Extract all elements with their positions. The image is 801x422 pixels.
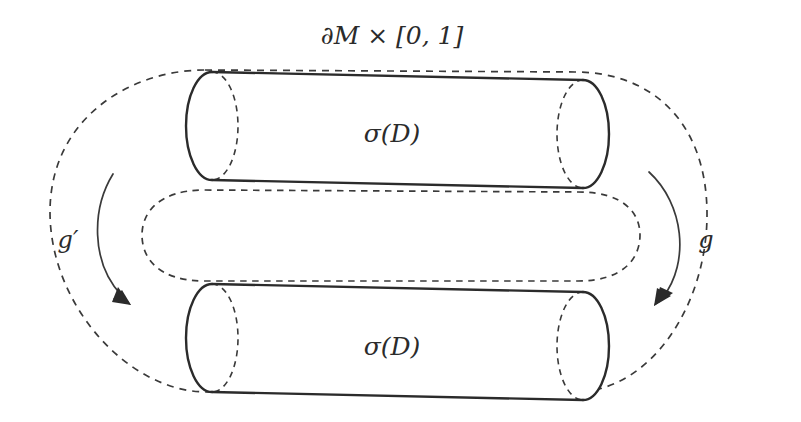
upper-cylinder: σ(D): [186, 72, 609, 188]
boundary-collar-label: ∂M × [0, 1]: [321, 21, 464, 50]
left-map-label: g′: [58, 226, 79, 254]
upper-cylinder-label: σ(D): [364, 119, 421, 148]
lower-cylinder-label: σ(D): [364, 332, 421, 361]
topology-figure: ∂M × [0, 1] σ(D): [0, 0, 801, 422]
inner-dashed-stadium: [142, 190, 640, 281]
figure-canvas: ∂M × [0, 1] σ(D): [0, 0, 801, 422]
right-map-label: g: [698, 226, 713, 254]
right-map-arrow: [649, 172, 680, 306]
lower-cylinder: σ(D): [186, 284, 609, 400]
left-arrowhead-fill: [112, 287, 131, 305]
left-map-arrow: [98, 174, 131, 305]
